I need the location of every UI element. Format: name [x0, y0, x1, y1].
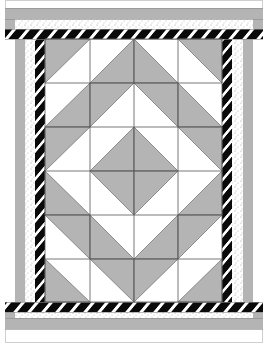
quilt-svg — [0, 0, 269, 347]
white-strip-left — [5, 39, 15, 302]
gray-border-right — [243, 39, 253, 302]
quilt-pattern — [0, 0, 269, 347]
block-layer — [45, 39, 222, 302]
white-strip-right — [253, 39, 263, 302]
stripe-band-top — [5, 29, 263, 39]
stripe-band-bottom — [5, 302, 263, 312]
gray-border-left — [15, 39, 25, 302]
stripe-border-left — [35, 39, 45, 302]
stripe-border-right — [222, 39, 232, 302]
